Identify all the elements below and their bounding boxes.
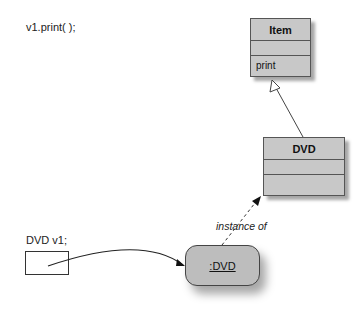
instance-of-arrowhead-icon	[252, 196, 261, 206]
instance-of-line	[222, 203, 255, 245]
reference-arrowhead-icon	[176, 259, 185, 266]
connectors	[0, 0, 364, 309]
inheritance-arrowhead-icon	[270, 80, 280, 92]
inheritance-line	[276, 88, 303, 137]
reference-line	[48, 250, 183, 266]
